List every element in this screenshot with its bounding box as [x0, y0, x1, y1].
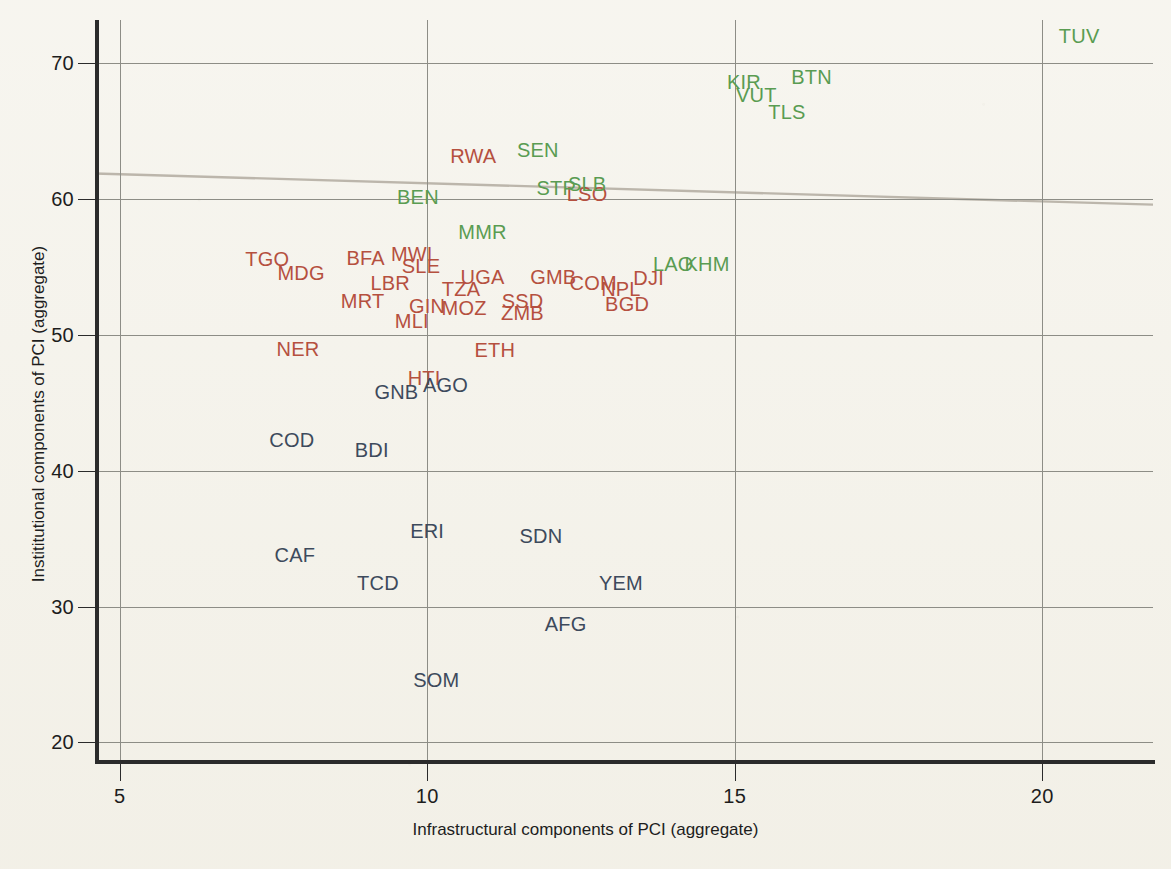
data-point-label: MLI: [395, 311, 429, 331]
gridline-horizontal: [95, 63, 1153, 64]
data-point-label: MOZ: [442, 298, 487, 318]
x-axis-tick: [120, 764, 121, 781]
x-axis-title: Infrastructural components of PCI (aggre…: [0, 820, 1171, 840]
data-point-label: ETH: [475, 340, 516, 360]
y-axis-title: Instititutional components of PCI (aggre…: [29, 114, 49, 714]
x-axis-tick-label: 15: [723, 785, 746, 808]
data-point-label: AGO: [423, 375, 468, 395]
scatter-plot-figure: RWALSOTGOBFAMWISLEMDGLBRUGAGMBCOMNPLDJIT…: [0, 0, 1171, 869]
data-point-label: RWA: [450, 146, 496, 166]
data-point-label: BFA: [346, 248, 384, 268]
data-point-label: MRT: [341, 291, 385, 311]
data-point-label: KHM: [685, 254, 730, 274]
y-axis-tick: [78, 607, 96, 608]
x-axis-tick-label: 20: [1031, 785, 1054, 808]
y-axis-tick: [78, 199, 96, 200]
data-point-label: YEM: [599, 573, 643, 593]
y-axis-tick: [78, 742, 96, 743]
x-axis-tick: [1042, 764, 1043, 781]
data-point-label: SDN: [520, 526, 563, 546]
gridline-horizontal: [95, 607, 1153, 608]
data-point-label: BDI: [355, 440, 389, 460]
data-point-label: TUV: [1059, 26, 1100, 46]
data-point-label: BEN: [397, 187, 439, 207]
gridline-horizontal: [95, 471, 1153, 472]
x-axis-line: [95, 760, 1155, 764]
gridline-vertical: [735, 20, 736, 760]
trend-line: [95, 20, 1153, 760]
gridline-horizontal: [95, 335, 1153, 336]
data-point-label: TLS: [768, 102, 805, 122]
data-point-label: ZMB: [501, 303, 544, 323]
x-axis-tick-label: 10: [416, 785, 439, 808]
data-point-label: MDG: [277, 263, 324, 283]
y-axis-line: [95, 20, 99, 764]
gridline-vertical: [1042, 20, 1043, 760]
x-axis-tick: [427, 764, 428, 781]
data-point-label: GNB: [374, 382, 418, 402]
x-axis-tick-label: 5: [114, 785, 125, 808]
gridline-horizontal: [95, 199, 1153, 200]
y-axis-tick-label: 20: [14, 731, 74, 754]
x-axis-tick: [735, 764, 736, 781]
y-axis-tick: [78, 63, 96, 64]
data-point-label: SEN: [517, 140, 559, 160]
data-point-label: AFG: [545, 614, 587, 634]
y-axis-tick: [78, 471, 96, 472]
data-point-label: SLB: [568, 174, 606, 194]
data-point-label: CAF: [275, 545, 316, 565]
gridline-horizontal: [95, 742, 1153, 743]
data-point-label: SOM: [413, 670, 459, 690]
data-point-label: TCD: [357, 573, 399, 593]
data-point-label: BTN: [791, 67, 832, 87]
plot-area: RWALSOTGOBFAMWISLEMDGLBRUGAGMBCOMNPLDJIT…: [95, 20, 1153, 760]
data-point-label: COD: [269, 430, 314, 450]
gridline-vertical: [120, 20, 121, 760]
data-point-label: NER: [277, 339, 320, 359]
y-axis-tick-label: 70: [14, 52, 74, 75]
data-point-label: ERI: [410, 521, 444, 541]
data-point-label: BGD: [605, 294, 649, 314]
data-point-label: MMR: [458, 222, 506, 242]
data-point-label: TZA: [442, 279, 480, 299]
y-axis-tick: [78, 335, 96, 336]
